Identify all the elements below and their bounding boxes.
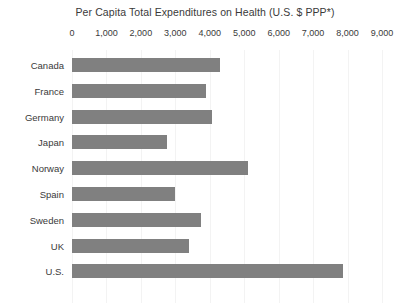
y-category-label: Spain — [2, 189, 64, 200]
y-category-label: Sweden — [2, 215, 64, 226]
bar — [72, 110, 212, 124]
y-category-label: Japan — [2, 137, 64, 148]
bar — [72, 161, 248, 175]
x-tick-label: 9,000 — [371, 28, 394, 38]
x-tick-label: 2,000 — [130, 28, 153, 38]
bar-row — [72, 58, 382, 72]
bar-row — [72, 110, 382, 124]
bar-row — [72, 135, 382, 149]
bar-row — [72, 264, 382, 278]
x-tick-label: 0 — [69, 28, 74, 38]
bar — [72, 135, 167, 149]
x-axis-tick-labels: 01,0002,0003,0004,0005,0006,0007,0008,00… — [0, 28, 410, 42]
x-tick-label: 6,000 — [267, 28, 290, 38]
y-axis-category-labels: CanadaFranceGermanyJapanNorwaySpainSwede… — [0, 50, 64, 303]
plot-area — [72, 50, 382, 303]
y-category-label: Germany — [2, 112, 64, 123]
bar — [72, 213, 201, 227]
bar-row — [72, 187, 382, 201]
x-tick-label: 3,000 — [164, 28, 187, 38]
y-category-label: Canada — [2, 60, 64, 71]
bar-chart: Per Capita Total Expenditures on Health … — [0, 0, 410, 303]
bar — [72, 264, 343, 278]
bar — [72, 84, 206, 98]
bar-row — [72, 213, 382, 227]
bar-row — [72, 84, 382, 98]
y-category-label: France — [2, 86, 64, 97]
bar — [72, 187, 175, 201]
x-tick-label: 7,000 — [302, 28, 325, 38]
chart-title: Per Capita Total Expenditures on Health … — [0, 6, 410, 18]
x-tick-label: 8,000 — [336, 28, 359, 38]
bar — [72, 58, 220, 72]
bar-row — [72, 239, 382, 253]
gridline — [382, 50, 383, 303]
bar — [72, 239, 189, 253]
x-tick-label: 4,000 — [199, 28, 222, 38]
x-tick-label: 5,000 — [233, 28, 256, 38]
y-category-label: Norway — [2, 163, 64, 174]
y-category-label: UK — [2, 241, 64, 252]
bar-row — [72, 161, 382, 175]
x-tick-label: 1,000 — [95, 28, 118, 38]
y-category-label: U.S. — [2, 266, 64, 277]
